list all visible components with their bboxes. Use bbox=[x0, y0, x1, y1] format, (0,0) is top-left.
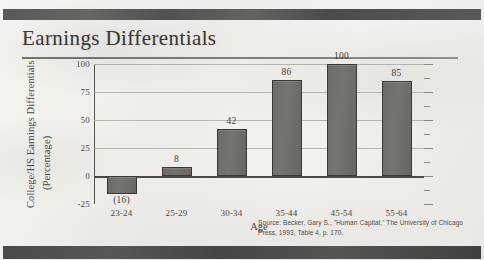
y-axis-tick-label: 50 bbox=[58, 115, 90, 125]
bar-value-label: 42 bbox=[202, 116, 262, 126]
x-axis-tick-label: 23-24 bbox=[91, 208, 153, 218]
x-axis-tick-label: 35-44 bbox=[256, 208, 318, 218]
y-axis-tick-mark bbox=[424, 148, 433, 149]
gridline bbox=[94, 92, 424, 93]
bar bbox=[382, 81, 412, 176]
y-axis-minor-tick-mark bbox=[424, 106, 430, 107]
slide-title: Earnings Differentials bbox=[22, 26, 216, 51]
bar-value-label: 85 bbox=[367, 68, 427, 78]
y-axis-title-line-1: College/HS Earnings Differentials bbox=[25, 60, 36, 208]
y-axis-minor-tick-mark bbox=[424, 190, 430, 191]
y-axis-tick-mark bbox=[424, 120, 433, 121]
y-axis-tick-mark bbox=[424, 176, 433, 177]
bar-value-label: (16) bbox=[92, 195, 152, 205]
plot-area: (16)8428610085 bbox=[94, 64, 424, 204]
x-axis-tick-label: 55-64 bbox=[366, 208, 428, 218]
bar bbox=[272, 80, 302, 176]
y-axis-tick-mark bbox=[424, 204, 433, 205]
bar bbox=[107, 176, 137, 194]
y-axis-tick-label: 75 bbox=[58, 87, 90, 97]
x-axis-tick-label: 30-34 bbox=[201, 208, 263, 218]
y-axis-tick-mark bbox=[424, 92, 433, 93]
x-axis-tick-label: 25-29 bbox=[146, 208, 208, 218]
bar-value-label: 8 bbox=[147, 154, 207, 164]
y-axis-tick-mark bbox=[424, 64, 433, 65]
scan-band-top bbox=[3, 9, 481, 20]
y-axis-title-line-2: (Percentage) bbox=[41, 136, 52, 190]
gridline bbox=[94, 148, 424, 149]
bar-chart: College/HS Earnings Differentials (Perce… bbox=[0, 60, 484, 260]
y-axis-line bbox=[94, 64, 95, 204]
y-axis-minor-tick-mark bbox=[424, 134, 430, 135]
y-axis-tick-labels: 1007550250-25 bbox=[58, 60, 90, 208]
slide-page: Earnings Differentials College/HS Earnin… bbox=[0, 0, 484, 260]
bar-value-label: 86 bbox=[257, 67, 317, 77]
y-axis-minor-tick-mark bbox=[424, 162, 430, 163]
y-axis-tick-label: 0 bbox=[58, 171, 90, 181]
gridline bbox=[94, 64, 424, 65]
y-axis-tick-label: 100 bbox=[58, 59, 90, 69]
x-axis-tick-label: 45-54 bbox=[311, 208, 373, 218]
y-axis-minor-tick-mark bbox=[424, 78, 430, 79]
y-axis-title: College/HS Earnings Differentials (Perce… bbox=[22, 60, 62, 210]
bar-value-label: 100 bbox=[312, 51, 372, 61]
y-axis-tick-label: -25 bbox=[58, 199, 90, 209]
bar bbox=[327, 64, 357, 176]
zero-baseline bbox=[94, 176, 424, 178]
y-axis-tick-label: 25 bbox=[58, 143, 90, 153]
bar bbox=[162, 167, 192, 176]
bar bbox=[217, 129, 247, 176]
source-citation: Source: Becker, Gary S., "Human Capital,… bbox=[258, 218, 464, 238]
